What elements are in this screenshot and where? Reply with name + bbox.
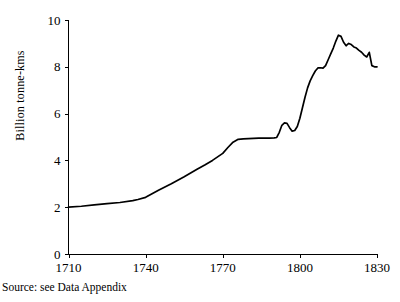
plot-area: 0246810 17101740177018001830 [0, 0, 400, 302]
chart-figure: 0246810 17101740177018001830 Billion ton… [0, 0, 400, 302]
x-tick-label: 1800 [287, 260, 313, 275]
y-tick-label: 2 [54, 200, 61, 215]
x-tick-label: 1770 [210, 260, 236, 275]
x-axis-ticks: 17101740177018001830 [56, 254, 391, 275]
y-tick-label: 4 [54, 153, 61, 168]
y-axis-title: Billion tonne-kms [13, 46, 28, 146]
y-axis-ticks: 0246810 [48, 13, 69, 262]
x-tick-label: 1710 [56, 260, 82, 275]
data-series-line [69, 35, 378, 207]
y-tick-label: 10 [48, 13, 61, 28]
source-note: Source: see Data Appendix [2, 281, 127, 293]
y-tick-label: 8 [54, 59, 61, 74]
x-tick-label: 1740 [133, 260, 159, 275]
y-tick-label: 6 [54, 106, 61, 121]
x-tick-label: 1830 [364, 260, 390, 275]
